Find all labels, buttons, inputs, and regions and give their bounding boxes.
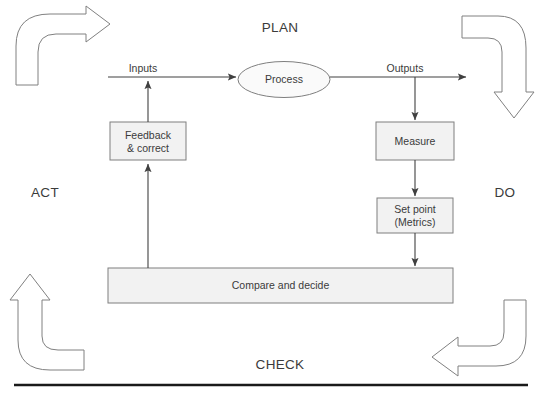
cycle-label-check: CHECK [240, 357, 320, 373]
measure-node-label: Measure [376, 135, 454, 147]
feedback-node-label-line1: Feedback [110, 129, 186, 141]
feedback-node-label-line2: & correct [110, 142, 186, 154]
cycle-label-plan: PLAN [240, 20, 320, 36]
cycle-label-act: ACT [16, 185, 74, 201]
diagram-graphics [0, 0, 541, 397]
process-node-label: Process [238, 73, 330, 85]
setpoint-node-label-line1: Set point [377, 203, 453, 215]
check-to-act-block-arrow [10, 274, 84, 370]
do-to-check-block-arrow [432, 300, 526, 376]
act-to-plan-block-arrow [16, 6, 110, 85]
diagram-canvas: PLAN DO CHECK ACT Inputs Outputs Process… [0, 0, 541, 397]
setpoint-node-label-line2: (Metrics) [377, 216, 453, 228]
cycle-label-do: DO [476, 185, 534, 201]
compare-node-label: Compare and decide [108, 279, 453, 291]
plan-to-do-block-arrow [462, 16, 534, 118]
flow-label-outputs: Outputs [370, 62, 440, 74]
flow-label-inputs: Inputs [108, 62, 178, 74]
